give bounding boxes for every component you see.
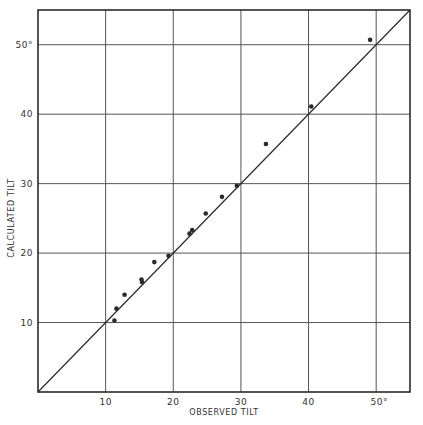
y-tick-label: 30 <box>21 179 33 189</box>
x-tick-label: 40 <box>302 397 314 407</box>
x-tick-label: 20 <box>167 397 179 407</box>
identity-line <box>38 10 410 392</box>
data-point <box>114 306 119 311</box>
data-point <box>203 211 208 216</box>
y-axis-label: CALCULATED TILT <box>7 178 16 258</box>
data-point <box>309 104 314 109</box>
x-axis-label: OBSERVED TILT <box>189 408 258 417</box>
data-point <box>112 318 117 323</box>
data-point <box>122 292 127 297</box>
y-axis-ticks: 1020304050° <box>16 40 33 328</box>
scatter-chart: 1020304050° 1020304050° OBSERVED TILT CA… <box>0 0 423 425</box>
data-point <box>140 280 145 285</box>
data-point <box>368 38 373 43</box>
data-point <box>190 228 195 233</box>
data-point <box>152 260 157 265</box>
y-tick-label: 40 <box>21 109 33 119</box>
y-tick-label: 10 <box>21 318 33 328</box>
y-tick-label: 50° <box>16 40 33 50</box>
data-point <box>235 183 240 188</box>
y-tick-label: 20 <box>21 248 33 258</box>
data-point <box>166 254 171 259</box>
data-point <box>220 195 225 200</box>
data-points <box>112 38 372 323</box>
x-axis-ticks: 1020304050° <box>99 397 387 407</box>
x-tick-label: 10 <box>99 397 111 407</box>
x-tick-label: 50° <box>370 397 387 407</box>
data-point <box>264 142 269 147</box>
x-tick-label: 30 <box>235 397 247 407</box>
